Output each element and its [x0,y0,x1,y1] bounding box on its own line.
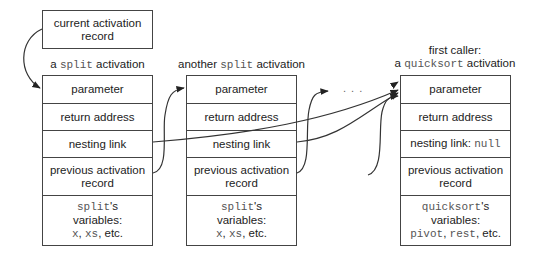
nesting-link-cell: nesting link [187,130,296,157]
current-pointer-arrow [24,29,42,88]
incoming-arrow-top [330,82,398,125]
nesting-link-arrow-2 [297,93,398,142]
quicksort-activation-record: parameter return address nesting link: n… [400,75,511,246]
local-variables-cell: split's variables: x, xs, etc. [43,195,152,245]
frame-title-quicksort: first caller: a quicksort activation [380,44,530,71]
previous-link-arrow-1 [153,88,184,173]
frame-title-split-1: a split activation [42,58,153,72]
local-variables-cell: split's variables: x, xs, etc. [187,195,296,245]
ellipsis: . . . [343,82,363,94]
current-activation-record-label: current activation record [43,11,152,48]
local-variables-cell: quicksort's variables: pivot, rest, etc. [401,195,510,245]
current-activation-record-box: current activation record [42,10,153,49]
return-address-cell: return address [401,103,510,130]
nesting-link-cell: nesting link [43,130,152,157]
parameter-cell: parameter [43,76,152,103]
previous-link-arrow-2 [297,91,328,173]
return-address-cell: return address [43,103,152,130]
return-address-cell: return address [187,103,296,130]
parameter-cell: parameter [187,76,296,103]
split-activation-record-2: parameter return address nesting link pr… [186,75,297,246]
previous-activation-record-cell: previous activationrecord [43,157,152,195]
split-activation-record-1: parameter return address nesting link pr… [42,75,153,246]
parameter-cell: parameter [401,76,510,103]
previous-activation-record-cell: previous activationrecord [401,157,510,195]
frame-title-split-2: another split activation [170,58,313,72]
nesting-link-cell: nesting link: null [401,130,510,157]
previous-activation-record-cell: previous activationrecord [187,157,296,195]
previous-link-arrow-3 [368,96,398,175]
